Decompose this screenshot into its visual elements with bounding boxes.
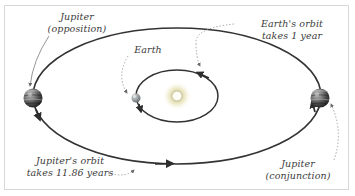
label-earth-text: Earth (124, 44, 172, 56)
label-earth-orbit-line2: takes 1 year (236, 30, 348, 42)
label-earth: Earth (124, 44, 172, 56)
label-jupiter-opposition-line1: Jupiter (34, 11, 120, 23)
label-jupiter-conjunction-line1: Jupiter (254, 158, 342, 170)
leader-jupiter-opposition (30, 36, 49, 86)
earth-orbit-arrow-left (139, 104, 141, 112)
label-jupiter-conjunction: Jupiter (conjunction) (254, 158, 342, 181)
leader-jupiter-conjunction (331, 104, 338, 160)
jupiter-opposition-body (23, 89, 43, 108)
earth-body (132, 94, 141, 103)
label-jupiter-conjunction-line2: (conjunction) (254, 170, 342, 182)
label-jupiter-opposition: Jupiter (opposition) (34, 11, 120, 34)
jupiter-orbit-arrow-bottom (155, 164, 173, 165)
label-earth-orbit: Earth's orbit takes 1 year (236, 18, 348, 41)
label-jupiter-orbit-line1: Jupiter's orbit (12, 155, 128, 167)
label-jupiter-opposition-line2: (opposition) (34, 23, 120, 35)
leader-earth (122, 56, 128, 93)
label-jupiter-orbit-line2: takes 11.86 years (12, 167, 128, 179)
label-jupiter-orbit: Jupiter's orbit takes 11.86 years (12, 155, 128, 178)
sun-body (162, 81, 192, 111)
earth-orbit-arrow-top (197, 73, 209, 79)
label-earth-orbit-line1: Earth's orbit (236, 18, 348, 30)
orbital-diagram: Jupiter (opposition) Earth Earth's orbit… (0, 0, 355, 196)
